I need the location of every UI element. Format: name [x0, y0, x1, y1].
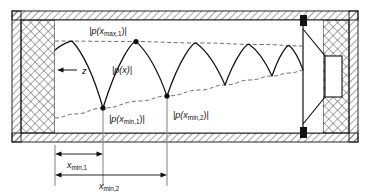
dim-x-min-1-label: xmin,1	[66, 160, 88, 171]
dimension-x-min-1: xmin,1	[55, 151, 103, 171]
dim1-arrowhead-right	[97, 151, 104, 156]
speaker-magnet	[325, 56, 342, 97]
speaker-mount-bottom	[300, 127, 307, 138]
dim2-arrowhead-right	[161, 172, 168, 177]
dim-x-min-2-label: xmin,2	[98, 181, 120, 192]
dim2-arrowhead-left	[55, 172, 62, 177]
p_max_1_dot	[133, 39, 138, 44]
dim1-arrowhead-left	[55, 151, 62, 156]
figure-root: z xmin,1 xmin,2 |p(xmax,1)| |p(x)| |p(xm…	[0, 0, 370, 196]
left-termination-block	[21, 20, 55, 133]
duct-structure	[12, 11, 358, 142]
z-axis-label: z	[81, 66, 87, 76]
wall-right-outer	[349, 11, 358, 142]
duct-standing-wave-diagram: z xmin,1 xmin,2 |p(xmax,1)| |p(x)| |p(xm…	[0, 0, 370, 196]
p_min_1_dot	[100, 105, 105, 110]
wall-left-outer	[12, 11, 21, 142]
dimension-x-min-2: xmin,2	[55, 172, 167, 192]
speaker-mount-top	[300, 15, 307, 26]
p-of-x-label: |p(x)|	[112, 65, 132, 75]
p_min_2_dot	[164, 93, 169, 98]
